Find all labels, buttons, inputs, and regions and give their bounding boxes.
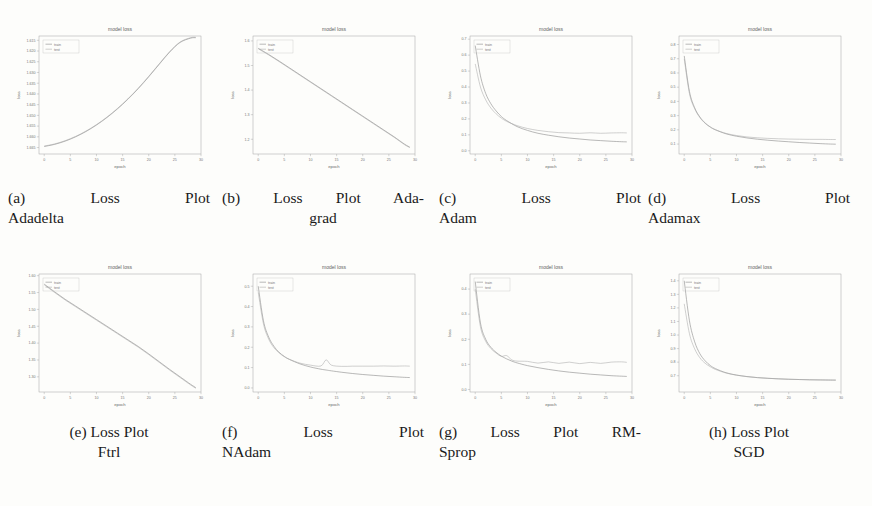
svg-text:5: 5 bbox=[709, 158, 711, 162]
svg-text:25: 25 bbox=[813, 396, 817, 400]
svg-text:1.620: 1.620 bbox=[27, 49, 36, 53]
svg-text:5: 5 bbox=[500, 158, 502, 162]
chart-svg-adamax: model loss0.10.20.30.40.50.60.70.8051015… bbox=[649, 14, 849, 182]
svg-text:0.3: 0.3 bbox=[462, 101, 467, 105]
svg-text:0.4: 0.4 bbox=[671, 100, 676, 104]
svg-text:25: 25 bbox=[387, 396, 391, 400]
svg-text:0.0: 0.0 bbox=[462, 149, 467, 153]
svg-text:15: 15 bbox=[335, 158, 339, 162]
svg-text:0.1: 0.1 bbox=[245, 366, 250, 370]
caption-adagrad: (b) Loss Plot Ada- grad bbox=[214, 188, 432, 228]
svg-text:1.30: 1.30 bbox=[29, 375, 36, 379]
svg-text:25: 25 bbox=[604, 396, 608, 400]
caption-line-1: (f) Loss Plot bbox=[222, 422, 424, 442]
svg-text:20: 20 bbox=[787, 158, 791, 162]
svg-text:train: train bbox=[54, 43, 61, 47]
svg-text:epoch: epoch bbox=[328, 164, 340, 169]
svg-text:1.35: 1.35 bbox=[29, 358, 36, 362]
svg-text:15: 15 bbox=[761, 396, 765, 400]
svg-text:15: 15 bbox=[121, 158, 125, 162]
svg-text:20: 20 bbox=[147, 158, 151, 162]
figure-page: model loss1.6151.6201.6251.6301.6351.640… bbox=[0, 0, 872, 506]
svg-text:test: test bbox=[485, 286, 491, 290]
svg-text:5: 5 bbox=[69, 158, 71, 162]
svg-text:0.5: 0.5 bbox=[245, 285, 250, 289]
caption-ftrl: (e) Loss Plot Ftrl bbox=[0, 422, 218, 462]
svg-text:30: 30 bbox=[413, 158, 417, 162]
svg-text:15: 15 bbox=[335, 396, 339, 400]
svg-text:1.3: 1.3 bbox=[245, 113, 250, 117]
svg-text:1.665: 1.665 bbox=[27, 146, 36, 150]
svg-text:0.3: 0.3 bbox=[462, 312, 467, 316]
caption-adamax: (d) Loss Plot Adamax bbox=[640, 188, 858, 228]
svg-text:0: 0 bbox=[683, 158, 685, 162]
svg-text:1.640: 1.640 bbox=[27, 92, 36, 96]
svg-text:10: 10 bbox=[94, 158, 98, 162]
svg-text:1.2: 1.2 bbox=[671, 306, 676, 310]
svg-text:1.50: 1.50 bbox=[29, 308, 36, 312]
plot-rmsprop: model loss0.00.10.20.30.4051015202530epo… bbox=[440, 252, 640, 420]
svg-text:0.0: 0.0 bbox=[462, 388, 467, 392]
chart-svg-adam: model loss0.00.10.20.30.40.50.60.7051015… bbox=[440, 14, 640, 182]
svg-text:1.4: 1.4 bbox=[671, 279, 676, 283]
svg-text:0.6: 0.6 bbox=[671, 71, 676, 75]
svg-text:5: 5 bbox=[283, 396, 285, 400]
caption-line-1: (b) Loss Plot Ada- bbox=[222, 188, 424, 208]
svg-text:train: train bbox=[268, 281, 275, 285]
svg-text:0.7: 0.7 bbox=[671, 57, 676, 61]
svg-text:1.40: 1.40 bbox=[29, 341, 36, 345]
chart-svg-adagrad: model loss1.21.31.41.51.6051015202530epo… bbox=[223, 14, 423, 182]
svg-text:test: test bbox=[694, 286, 700, 290]
caption-line-2: Adamax bbox=[648, 208, 850, 228]
svg-text:train: train bbox=[268, 43, 275, 47]
svg-text:0: 0 bbox=[474, 158, 476, 162]
svg-text:loss: loss bbox=[230, 91, 235, 98]
caption-line-2: SGD bbox=[648, 442, 850, 462]
svg-text:25: 25 bbox=[173, 396, 177, 400]
svg-text:30: 30 bbox=[630, 396, 634, 400]
caption-line-2: Ftrl bbox=[8, 442, 210, 462]
chart-svg-adadelta: model loss1.6151.6201.6251.6301.6351.640… bbox=[9, 14, 209, 182]
svg-text:test: test bbox=[485, 48, 491, 52]
svg-text:train: train bbox=[485, 43, 492, 47]
svg-text:1.655: 1.655 bbox=[27, 124, 36, 128]
svg-text:epoch: epoch bbox=[328, 402, 340, 407]
svg-text:1.660: 1.660 bbox=[27, 135, 36, 139]
svg-text:loss: loss bbox=[447, 91, 452, 98]
subfigure-adam: model loss0.00.10.20.30.40.50.60.7051015… bbox=[431, 14, 649, 182]
svg-text:0: 0 bbox=[683, 396, 685, 400]
svg-text:loss: loss bbox=[16, 329, 21, 336]
subfigure-ftrl: model loss1.301.351.401.451.501.551.6005… bbox=[0, 252, 218, 420]
svg-text:0: 0 bbox=[257, 158, 259, 162]
svg-text:0.1: 0.1 bbox=[462, 363, 467, 367]
svg-text:0.1: 0.1 bbox=[462, 133, 467, 137]
svg-text:model loss: model loss bbox=[748, 26, 772, 32]
svg-text:loss: loss bbox=[656, 91, 661, 98]
svg-text:1.0: 1.0 bbox=[671, 333, 676, 337]
svg-text:1.615: 1.615 bbox=[27, 39, 36, 43]
plot-nadam: model loss0.00.10.20.30.40.5051015202530… bbox=[223, 252, 423, 420]
subfigure-adamax: model loss0.10.20.30.40.50.60.70.8051015… bbox=[640, 14, 858, 182]
svg-text:1.4: 1.4 bbox=[245, 88, 250, 92]
svg-text:0: 0 bbox=[43, 158, 45, 162]
svg-text:1.1: 1.1 bbox=[671, 320, 676, 324]
caption-line-1: (g) Loss Plot RM- bbox=[439, 422, 641, 442]
svg-text:0.8: 0.8 bbox=[671, 43, 676, 47]
svg-text:loss: loss bbox=[16, 91, 21, 98]
svg-text:model loss: model loss bbox=[322, 264, 346, 270]
svg-text:15: 15 bbox=[552, 158, 556, 162]
chart-svg-sgd: model loss0.70.80.91.01.11.21.31.4051015… bbox=[649, 252, 849, 420]
plot-adam: model loss0.00.10.20.30.40.50.60.7051015… bbox=[440, 14, 640, 182]
caption-line-1: (h) Loss Plot bbox=[648, 422, 850, 442]
svg-text:20: 20 bbox=[787, 396, 791, 400]
svg-text:10: 10 bbox=[308, 396, 312, 400]
svg-text:30: 30 bbox=[199, 396, 203, 400]
svg-text:0.4: 0.4 bbox=[462, 85, 467, 89]
svg-text:train: train bbox=[694, 281, 701, 285]
svg-text:20: 20 bbox=[578, 396, 582, 400]
svg-text:0.2: 0.2 bbox=[462, 117, 467, 121]
svg-text:1.635: 1.635 bbox=[27, 82, 36, 86]
caption-nadam: (f) Loss Plot NAdam bbox=[214, 422, 432, 462]
svg-text:1.55: 1.55 bbox=[29, 291, 36, 295]
svg-text:train: train bbox=[694, 43, 701, 47]
